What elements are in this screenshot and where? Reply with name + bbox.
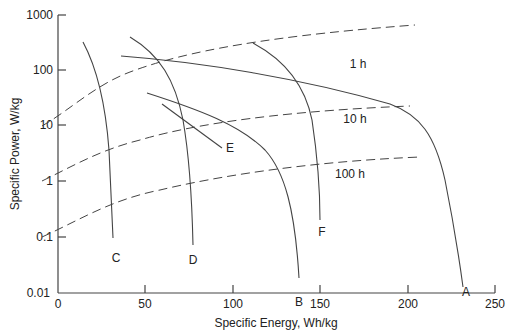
curve-c [83, 42, 113, 238]
curve-f [253, 43, 320, 220]
x-axis-label: Specific Energy, Wh/kg [214, 316, 337, 330]
svg-text:100: 100 [223, 297, 243, 311]
svg-text:D: D [189, 253, 198, 267]
svg-text:F: F [318, 225, 325, 239]
svg-text:100 h: 100 h [335, 167, 365, 181]
svg-text:B: B [295, 295, 303, 309]
curve-a [121, 56, 463, 287]
svg-text:1000: 1000 [26, 8, 53, 22]
svg-text:0.1: 0.1 [36, 230, 53, 244]
svg-text:1 h: 1 h [350, 57, 367, 71]
svg-text:10: 10 [40, 118, 54, 132]
svg-text:200: 200 [398, 297, 418, 311]
chart: 1000 100 10 1 0.1 0.01 0 50 100 150 200 … [0, 0, 513, 335]
svg-text:10 h: 10 h [343, 112, 366, 126]
curve-labels: A B C D E F 1 h 10 h 100 h [112, 57, 470, 309]
svg-text:1: 1 [46, 174, 53, 188]
svg-text:A: A [462, 285, 470, 299]
curve-b [147, 93, 299, 278]
y-tick-labels: 1000 100 10 1 0.1 0.01 [26, 8, 53, 300]
curve-e [162, 104, 222, 148]
line-1h [42, 25, 415, 126]
svg-text:50: 50 [138, 297, 152, 311]
svg-text:250: 250 [485, 297, 505, 311]
battery-curves [83, 37, 463, 287]
svg-text:150: 150 [310, 297, 330, 311]
svg-text:E: E [226, 141, 234, 155]
svg-text:100: 100 [33, 63, 53, 77]
x-tick-labels: 0 50 100 150 200 250 [55, 297, 506, 311]
svg-text:0.01: 0.01 [27, 286, 51, 300]
svg-text:C: C [112, 251, 121, 265]
y-axis-label: Specific Power, W/kg [8, 98, 22, 211]
svg-text:0: 0 [55, 297, 62, 311]
